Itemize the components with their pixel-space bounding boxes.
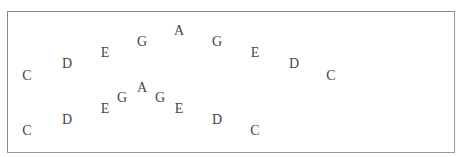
- upper-note-8: D: [289, 57, 299, 71]
- lower-note-7: E: [175, 102, 184, 116]
- upper-note-4: G: [137, 35, 147, 49]
- pitch-contour-panel: [7, 11, 455, 153]
- upper-note-7: E: [251, 46, 260, 60]
- lower-note-5: A: [137, 81, 147, 95]
- lower-note-9: C: [250, 124, 259, 138]
- lower-note-4: G: [117, 91, 127, 105]
- upper-note-6: G: [212, 35, 222, 49]
- upper-note-2: D: [62, 57, 72, 71]
- lower-note-3: E: [101, 102, 110, 116]
- upper-note-5: A: [174, 24, 184, 38]
- lower-note-6: G: [155, 91, 165, 105]
- upper-note-3: E: [101, 46, 110, 60]
- lower-note-1: C: [22, 124, 31, 138]
- upper-note-9: C: [326, 69, 335, 83]
- lower-note-8: D: [212, 113, 222, 127]
- upper-note-1: C: [22, 69, 31, 83]
- lower-note-2: D: [62, 113, 72, 127]
